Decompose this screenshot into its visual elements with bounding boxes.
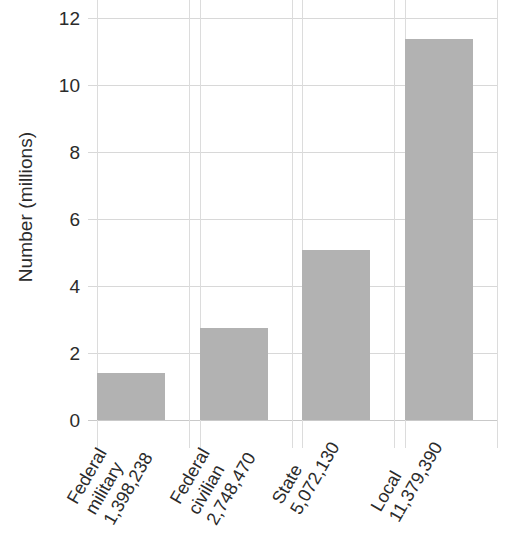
x-tick-label: State5,072,130 — [268, 428, 345, 519]
x-tick-label: Federalmilitary1,398,238 — [63, 428, 158, 529]
bar — [405, 39, 473, 420]
x-gridline — [497, 0, 498, 448]
y-tick-label: 10 — [16, 76, 80, 95]
bar — [302, 250, 370, 420]
x-axis-labels: Federalmilitary1,398,238Federalcivilian2… — [0, 420, 527, 557]
x-gridline — [189, 0, 190, 448]
y-tick-label: 6 — [16, 210, 80, 229]
x-tick-label: Local11,379,390 — [366, 428, 447, 526]
y-tick-label: 8 — [16, 143, 80, 162]
bar-chart: Number (millions) Federalmilitary1,398,2… — [0, 0, 527, 557]
y-gridline — [88, 18, 498, 19]
y-tick-label: 4 — [16, 277, 80, 296]
x-gridline — [292, 0, 293, 448]
plot-area — [88, 0, 498, 420]
x-gridline — [394, 0, 395, 448]
y-tick-label: 0 — [16, 411, 80, 430]
y-tick-label: 12 — [16, 9, 80, 28]
x-tick-label: Federalcivilian2,748,470 — [165, 428, 260, 529]
bar — [200, 328, 268, 420]
y-tick-label: 2 — [16, 344, 80, 363]
bar — [97, 373, 165, 420]
